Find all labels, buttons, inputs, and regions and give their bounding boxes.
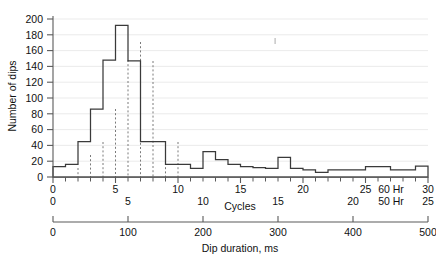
y-tick-label: 120 [25, 76, 43, 88]
x-tick-label-duration: 0 [50, 226, 56, 238]
histogram-outline [53, 25, 428, 177]
x-tick-labels-duration: 0 100 200 300 400 500 [50, 226, 436, 238]
y-tick-labels: 200 180 160 140 120 100 80 60 40 20 0 [25, 13, 43, 183]
x-axis-title-cycles: Cycles [224, 200, 256, 212]
x-tick-label-duration: 100 [119, 226, 137, 238]
x-tick-label-50hz: 0 [50, 195, 56, 207]
x-tick-label-duration: 400 [344, 226, 362, 238]
x-tick-label-60hz: 15 [235, 183, 247, 195]
y-tick-label: 80 [31, 108, 43, 120]
y-tick-label: 20 [31, 155, 43, 167]
y-tick-label: 200 [25, 13, 43, 25]
x-axis-title-duration: Dip duration, ms [202, 242, 278, 254]
y-axis [47, 16, 53, 177]
y-tick-label: 160 [25, 44, 43, 56]
x-tick-label-60hz: 10 [172, 183, 184, 195]
y-tick-label: 60 [31, 123, 43, 135]
x-tick-label-50hz: 5 [125, 195, 131, 207]
dip-histogram-figure: 200 180 160 140 120 100 80 60 40 20 0 Nu… [0, 0, 436, 261]
x-tick-label-50hz: 15 [272, 195, 284, 207]
x-tick-label-60hz: 5 [113, 183, 119, 195]
x-axis-duration [53, 216, 428, 222]
x-tick-label-60hz: 25 [360, 183, 372, 195]
x-tick-label-50hz: 20 [347, 195, 359, 207]
x-tick-labels-60hz: 0 5 10 15 20 25 30 60 Hr [50, 183, 434, 195]
y-tick-label: 100 [25, 92, 43, 104]
x-tick-label-50hz: 25 [422, 195, 434, 207]
x-tick-label-duration: 500 [419, 226, 436, 238]
y-tick-label: 40 [31, 139, 43, 151]
y-tick-label: 180 [25, 29, 43, 41]
x-tick-label-50hz: 10 [197, 195, 209, 207]
y-tick-label: 0 [37, 171, 43, 183]
x-axis-60hz-label: 60 Hr [378, 183, 404, 195]
x-tick-label-60hz: 30 [422, 183, 434, 195]
y-axis-title: Number of dips [6, 60, 18, 131]
x-tick-label-duration: 300 [269, 226, 287, 238]
x-tick-label-duration: 200 [194, 226, 212, 238]
x-axis-50hz-label: 50 Hr [378, 195, 404, 207]
x-tick-label-60hz: 20 [297, 183, 309, 195]
stray-mark [275, 38, 276, 44]
y-tick-label: 140 [25, 60, 43, 72]
x-tick-label-60hz: 0 [50, 183, 56, 195]
gridlines [53, 19, 428, 161]
chart-canvas: 200 180 160 140 120 100 80 60 40 20 0 Nu… [0, 0, 436, 261]
